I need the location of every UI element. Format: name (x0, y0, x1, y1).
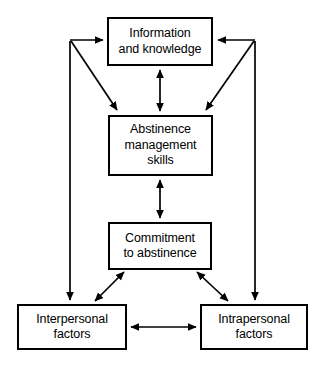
node-label-interpersonal: Interpersonal factors (34, 312, 110, 343)
node-label-intrapersonal: Intrapersonal factors (216, 312, 292, 343)
edge-commitment-interpersonal (95, 272, 124, 301)
node-commitment-to-abstinence: Commitment to abstinence (108, 222, 212, 270)
node-label-abstinence: Abstinence management skills (123, 122, 199, 169)
node-interpersonal-factors: Interpersonal factors (17, 304, 127, 350)
node-abstinence-management-skills: Abstinence management skills (108, 115, 213, 176)
edge-commitment-intrapersonal (197, 272, 228, 301)
edge-right-diagonal-to-abstinence (206, 41, 254, 110)
flowchart-diagram: Information and knowledge Abstinence man… (0, 0, 323, 369)
node-intrapersonal-factors: Intrapersonal factors (200, 304, 308, 350)
node-information-and-knowledge: Information and knowledge (107, 17, 213, 66)
node-label-information: Information and knowledge (117, 26, 204, 57)
node-label-commitment: Commitment to abstinence (121, 231, 198, 262)
